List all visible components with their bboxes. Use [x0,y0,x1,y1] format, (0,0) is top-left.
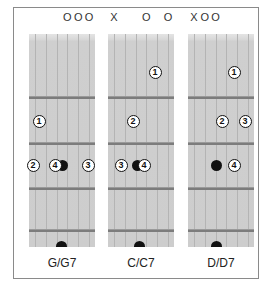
finger-marker-2: 2 [27,159,40,172]
root-half-dot-icon [211,241,222,247]
finger-marker-1: 1 [149,66,162,79]
string-line [57,34,58,247]
string-line [125,34,126,247]
string-line [216,34,217,247]
fret-line [29,142,95,145]
string-line [78,34,79,247]
open-string-icon: O [211,12,221,23]
fretboard-c-c7 [108,34,174,247]
finger-marker-3: 3 [239,115,252,128]
string-line [226,34,227,247]
fret-line [108,96,174,99]
open-string-icon: O [163,12,173,23]
root-half-dot-icon [134,241,145,247]
open-string-icon: O [84,12,94,23]
finger-marker-2: 2 [216,115,229,128]
string-line [136,34,137,247]
finger-marker-1: 1 [33,115,46,128]
fret-line [188,142,254,145]
open-string-icon: O [141,12,151,23]
open-string-icon: O [62,12,72,23]
fretboard-g-g7 [29,34,95,247]
string-line [114,34,115,247]
string-line [35,34,36,247]
fret-line [108,229,174,232]
finger-marker-1: 1 [228,66,241,79]
string-line [46,34,47,247]
fret-line [188,229,254,232]
fretboard-d-d7 [188,34,254,247]
fret-line [29,96,95,99]
fret-line [108,142,174,145]
string-line [168,34,169,247]
finger-marker-3: 3 [115,159,128,172]
muted-string-icon: X [189,12,199,23]
note-dot-icon [211,160,222,171]
finger-marker-4: 4 [138,159,151,172]
muted-string-icon: X [109,12,119,23]
finger-marker-4: 4 [49,159,62,172]
string-line [67,34,68,247]
finger-marker-4: 4 [228,159,241,172]
open-string-icon: O [200,12,210,23]
fret-line [29,229,95,232]
string-line [146,34,147,247]
chord-name-label: C/C7 [101,256,181,270]
finger-marker-2: 2 [127,115,140,128]
finger-marker-3: 3 [82,159,95,172]
string-line [89,34,90,247]
string-line [248,34,249,247]
chord-name-label: G/G7 [22,256,102,270]
chord-name-label: D/D7 [181,256,261,270]
open-string-icon: O [73,12,83,23]
root-half-dot-icon [56,241,67,247]
string-line [194,34,195,247]
fret-line [108,187,174,190]
fret-line [188,187,254,190]
fret-line [188,96,254,99]
string-line [205,34,206,247]
fret-line [29,187,95,190]
